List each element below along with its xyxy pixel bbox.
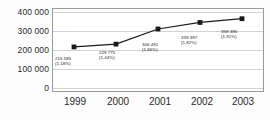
y-axis: 400 000 300 000 200 000 100 000 0: [0, 12, 49, 88]
x-tick-label: 2001: [149, 96, 171, 107]
x-tick-label: 2000: [107, 96, 129, 107]
data-point-marker: [72, 45, 77, 50]
point-label: 229 775 (1,44%): [99, 50, 115, 60]
y-tick-label: 200 000: [0, 46, 49, 55]
x-tick-label: 2003: [232, 96, 254, 107]
point-label-percent: (1,91%): [221, 34, 237, 39]
data-point-marker: [198, 20, 203, 25]
plot-area: 215 585 (1,18%) 229 775 (1,44%) 306 491 …: [52, 8, 264, 92]
point-label: 215 585 (1,18%): [55, 56, 71, 66]
point-label: 358 486 (1,91%): [221, 29, 237, 39]
point-label-percent: (1,18%): [55, 61, 71, 66]
x-axis: 1999 2000 2001 2002 2003: [52, 96, 264, 114]
x-tick-label: 1999: [64, 96, 86, 107]
point-label-percent: (1,44%): [99, 55, 115, 60]
line-chart: 400 000 300 000 200 000 100 000 0 215 58…: [0, 0, 270, 120]
point-label: 306 491 (1,66%): [142, 42, 158, 52]
point-label-percent: (1,66%): [142, 47, 158, 52]
data-point-marker: [240, 16, 245, 21]
point-label-percent: (1,82%): [181, 40, 197, 45]
data-point-marker: [156, 27, 161, 32]
y-tick-label: 100 000: [0, 65, 49, 74]
y-tick-label: 300 000: [0, 27, 49, 36]
point-label: 339 397 (1,82%): [181, 35, 197, 45]
data-point-marker: [114, 42, 119, 47]
y-tick-label: 400 000: [0, 8, 49, 17]
x-tick-label: 2002: [191, 96, 213, 107]
y-tick-label: 0: [0, 84, 49, 93]
